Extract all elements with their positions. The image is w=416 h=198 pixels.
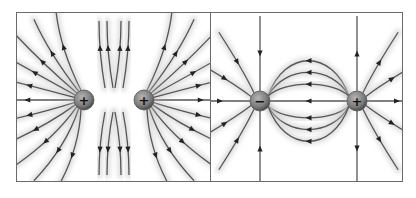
svg-text:+: + — [352, 94, 363, 109]
charge-positive-left: + — [74, 90, 94, 110]
charge-negative: − — [250, 91, 270, 111]
svg-text:+: + — [79, 93, 90, 108]
charge-positive-right: + — [134, 90, 154, 110]
panel-opposite-charges: − + — [210, 13, 402, 181]
figure-frame: + + − + — [16, 12, 403, 182]
charge-positive: + — [347, 91, 367, 111]
like-charges-field-diagram: + + — [17, 13, 210, 181]
svg-text:+: + — [139, 93, 150, 108]
panel-like-charges: + + — [17, 13, 210, 181]
dipole-field-diagram: − + — [211, 13, 402, 181]
svg-text:−: − — [255, 94, 266, 109]
